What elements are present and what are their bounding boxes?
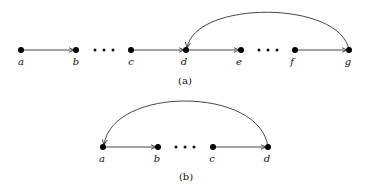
label-e: e <box>236 56 242 67</box>
node-b <box>155 144 161 150</box>
label-b: b <box>154 153 160 164</box>
label-b: b <box>73 56 79 67</box>
arc-g-d <box>187 12 349 50</box>
node-a <box>100 144 106 150</box>
label-d: d <box>181 56 187 67</box>
node-c <box>210 144 216 150</box>
label-c: c <box>209 153 215 164</box>
label-a: a <box>18 56 24 67</box>
label-a: a <box>99 153 105 164</box>
label-c: c <box>128 56 134 67</box>
label-f: f <box>289 56 296 67</box>
ellipsis-b-c <box>94 49 115 52</box>
node-e <box>238 47 244 53</box>
caption-b: (b) <box>179 171 193 182</box>
node-g <box>346 47 352 53</box>
node-d <box>265 144 271 150</box>
diagram-canvas: a b c d e f g (a) a b c d (b) <box>0 0 366 186</box>
label-g: g <box>345 56 351 67</box>
caption-a: (a) <box>178 75 192 86</box>
ellipsis-b-c <box>175 146 196 149</box>
node-d <box>183 47 189 53</box>
node-c <box>128 47 134 53</box>
arc-d-a <box>104 101 268 147</box>
diagram-a: a b c d e f g (a) <box>18 12 352 86</box>
ellipsis-e-f <box>258 49 279 52</box>
node-a <box>18 47 24 53</box>
label-d: d <box>264 153 270 164</box>
node-f <box>292 47 298 53</box>
diagram-b: a b c d (b) <box>99 101 271 182</box>
node-b <box>73 47 79 53</box>
